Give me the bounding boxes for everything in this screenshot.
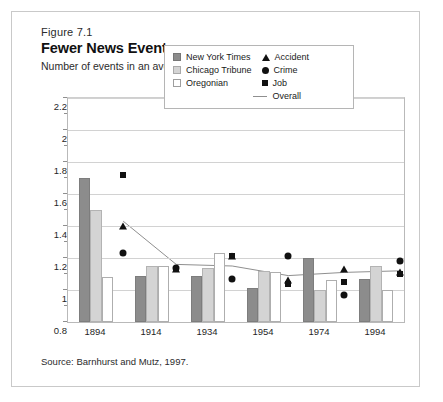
y-tick-label: 2.2 <box>43 101 67 112</box>
legend-label-accident: Accident <box>275 52 310 62</box>
bar-new-york-times-1894 <box>79 178 90 322</box>
bar-new-york-times-1934 <box>191 276 202 322</box>
bar-chicago-tribune-1974 <box>314 290 325 322</box>
marker-crime-1994 <box>397 258 404 265</box>
gridline <box>68 290 404 291</box>
bar-oregonian-1974 <box>326 280 337 322</box>
legend-label-overall: Overall <box>272 91 301 101</box>
marker-accident-1974 <box>340 266 348 273</box>
bar-chicago-tribune-1994 <box>370 266 381 322</box>
overall-trend-line <box>68 98 404 322</box>
marker-job-1974 <box>341 279 347 285</box>
legend-swatch-chicago-tribune <box>173 66 181 74</box>
y-tick-label: 0.8 <box>43 325 67 336</box>
source-note: Source: Barnhurst and Mutz, 1997. <box>41 356 188 367</box>
bar-chicago-tribune-1894 <box>90 210 101 322</box>
legend-swatch-new-york-times <box>173 53 181 61</box>
legend-label-crime: Crime <box>274 65 298 75</box>
x-axis: 189419141934195419741994 <box>67 326 405 342</box>
bar-new-york-times-1914 <box>135 276 146 322</box>
marker-crime-1894 <box>120 250 127 257</box>
legend-column-bars: New York Times Chicago Tribune Oregonian <box>173 52 252 88</box>
chart-legend: New York Times Chicago Tribune Oregonian… <box>164 45 354 109</box>
x-tick-label: 1934 <box>196 326 217 337</box>
marker-crime-1974 <box>341 291 348 298</box>
legend-column-markers: Accident Crime Job <box>262 52 310 88</box>
legend-item-overall: Overall <box>173 91 345 101</box>
triangle-icon <box>262 54 270 61</box>
marker-job-1914 <box>173 266 179 272</box>
x-tick-label: 1954 <box>252 326 273 337</box>
gridline <box>68 162 404 163</box>
x-tick-label: 1914 <box>140 326 161 337</box>
legend-label-new-york-times: New York Times <box>186 52 251 62</box>
legend-item-new-york-times: New York Times <box>173 52 252 62</box>
gridline <box>68 130 404 131</box>
bar-chicago-tribune-1934 <box>202 268 213 322</box>
y-tick-label: 2 <box>43 133 67 144</box>
marker-job-1894 <box>120 172 126 178</box>
bar-chicago-tribune-1914 <box>146 266 157 322</box>
bar-oregonian-1994 <box>382 290 393 322</box>
y-tick-label: 1 <box>43 293 67 304</box>
figure-number: Figure 7.1 <box>41 26 93 38</box>
figure-title: Fewer News Events <box>41 40 175 56</box>
figure-card: Figure 7.1 Fewer News Events Number of e… <box>11 11 420 387</box>
bar-chicago-tribune-1954 <box>258 271 269 322</box>
y-tick-label: 1.8 <box>43 165 67 176</box>
marker-accident-1894 <box>119 223 127 230</box>
legend-item-chicago-tribune: Chicago Tribune <box>173 65 252 75</box>
marker-crime-1954 <box>285 253 292 260</box>
marker-crime-1934 <box>229 275 236 282</box>
y-tick-label: 1.2 <box>43 261 67 272</box>
x-tick-label: 1994 <box>364 326 385 337</box>
bar-new-york-times-1994 <box>359 279 370 322</box>
bar-oregonian-1954 <box>270 272 281 322</box>
marker-job-1994 <box>397 271 403 277</box>
line-icon <box>253 96 267 97</box>
legend-item-oregonian: Oregonian <box>173 78 252 88</box>
plot-frame <box>67 97 405 323</box>
y-axis: 0.811.21.41.61.822.2 <box>41 97 67 323</box>
gridline <box>68 194 404 195</box>
y-tick-label: 1.4 <box>43 229 67 240</box>
legend-item-crime: Crime <box>262 65 310 75</box>
legend-swatch-oregonian <box>173 79 181 87</box>
x-tick-label: 1974 <box>308 326 329 337</box>
y-tick-label: 1.6 <box>43 197 67 208</box>
bar-oregonian-1914 <box>158 266 169 322</box>
marker-job-1934 <box>229 253 235 259</box>
legend-label-oregonian: Oregonian <box>186 78 228 88</box>
legend-item-job: Job <box>262 78 310 88</box>
square-icon <box>262 80 268 86</box>
chart-plot-area: 0.811.21.41.61.822.2 1894191419341954197… <box>41 88 405 348</box>
legend-label-job: Job <box>273 78 288 88</box>
x-tick-label: 1894 <box>84 326 105 337</box>
bar-new-york-times-1954 <box>247 288 258 322</box>
legend-label-chicago-tribune: Chicago Tribune <box>186 65 252 75</box>
marker-job-1954 <box>285 281 291 287</box>
circle-icon <box>262 67 269 74</box>
bar-new-york-times-1974 <box>303 258 314 322</box>
bar-oregonian-1934 <box>214 253 225 322</box>
bar-oregonian-1894 <box>102 277 113 322</box>
legend-item-accident: Accident <box>262 52 310 62</box>
